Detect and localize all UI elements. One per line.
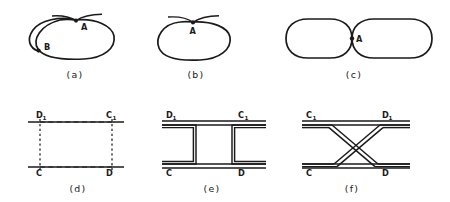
point-b-dot xyxy=(37,49,41,53)
label-c1: C xyxy=(106,110,112,120)
figure-root: A B (a) A (b) A (c) D 1 C xyxy=(0,0,450,202)
right-lobe-c xyxy=(352,19,432,58)
point-a-dot-c xyxy=(350,36,354,40)
left-lobe-c xyxy=(286,19,352,58)
panel-b: A (b) xyxy=(150,0,260,90)
right-bracket-inner-e xyxy=(235,128,266,162)
label-c1-subscript: 1 xyxy=(112,115,116,121)
label-d1-subscript-f: 1 xyxy=(388,115,392,121)
panel-e: D 1 C 1 C D (e) xyxy=(150,95,280,202)
diagonal-strip-a-lower-f xyxy=(329,128,375,167)
panel-f: C 1 D 1 C D (f) xyxy=(280,95,450,202)
label-c-f: C xyxy=(306,168,312,178)
label-c1-e: C xyxy=(238,110,244,120)
point-a-dot xyxy=(74,19,78,23)
label-c1-f: C xyxy=(306,110,312,120)
caption-c: (c) xyxy=(346,69,362,80)
left-bracket-inner-e xyxy=(162,128,193,162)
outer-loop-a xyxy=(36,19,114,59)
label-d1-subscript: 1 xyxy=(42,115,46,121)
caption-f: (f) xyxy=(345,183,360,194)
label-c1-subscript-f: 1 xyxy=(312,115,316,121)
point-a-dot-b xyxy=(191,20,195,24)
point-a-label-c: A xyxy=(356,34,363,44)
label-c: C xyxy=(36,168,42,178)
label-d1-subscript-e: 1 xyxy=(172,115,176,121)
panel-d: D 1 C 1 C D (d) xyxy=(0,95,150,202)
point-a-label-b: A xyxy=(190,26,197,36)
diagonal-strip-b-lower-f xyxy=(337,128,383,167)
label-d: D xyxy=(106,168,113,178)
diagonal-strip-b-upper-f xyxy=(334,125,380,164)
label-c-e: C xyxy=(166,168,172,178)
point-b-label: B xyxy=(44,42,50,52)
label-c1-subscript-e: 1 xyxy=(244,115,248,121)
panel-a: A B (a) xyxy=(0,0,150,90)
caption-b: (b) xyxy=(187,69,204,80)
label-d-e: D xyxy=(238,168,245,178)
caption-e: (e) xyxy=(204,183,221,194)
caption-a: (a) xyxy=(67,69,84,80)
left-bracket-outer-e xyxy=(162,125,196,164)
point-a-label: A xyxy=(81,22,88,32)
panel-c: A (c) xyxy=(260,0,450,90)
right-bracket-outer-e xyxy=(232,125,266,164)
label-d-f: D xyxy=(382,168,389,178)
caption-d: (d) xyxy=(69,183,86,194)
diagonal-strip-a-upper-f xyxy=(332,125,378,164)
